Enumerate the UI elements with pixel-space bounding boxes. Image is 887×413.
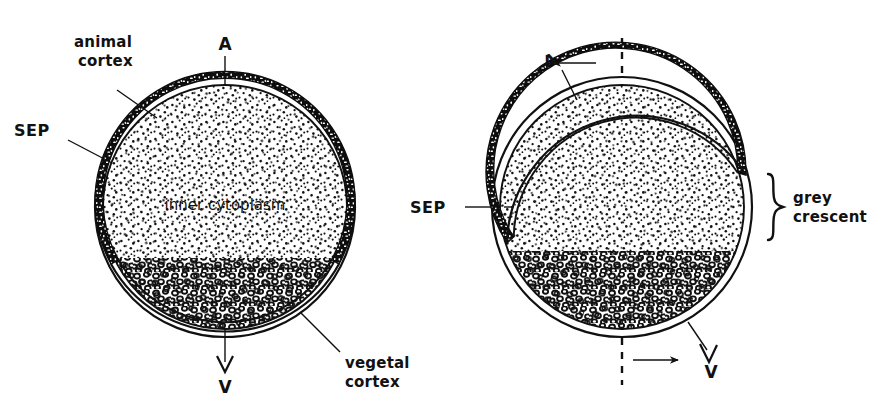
vegetal-pole-label-right: V <box>704 362 718 382</box>
grey-crescent-label-line2: crescent <box>793 208 867 226</box>
animal-pole-label-left: A <box>218 34 232 54</box>
cortical-rotation-diagram: A V animal cortex SEP inner cytoplasm ve… <box>0 0 887 413</box>
animal-cortex-label-line1: animal <box>74 33 132 51</box>
animal-cortex-label-line2: cortex <box>78 52 133 70</box>
sep-label-right: SEP <box>410 198 446 217</box>
vegetal-cortex-label-line2: cortex <box>345 373 400 391</box>
sep-label-left: SEP <box>14 121 50 140</box>
grey-crescent-label-line1: grey <box>793 189 832 207</box>
vegetal-cortex-label-line1: vegetal <box>345 354 410 372</box>
figure-root: A V animal cortex SEP inner cytoplasm ve… <box>0 0 887 413</box>
inner-cytoplasm-label: inner cytoplasm <box>165 196 286 214</box>
vegetal-pole-label-left: V <box>218 377 232 397</box>
